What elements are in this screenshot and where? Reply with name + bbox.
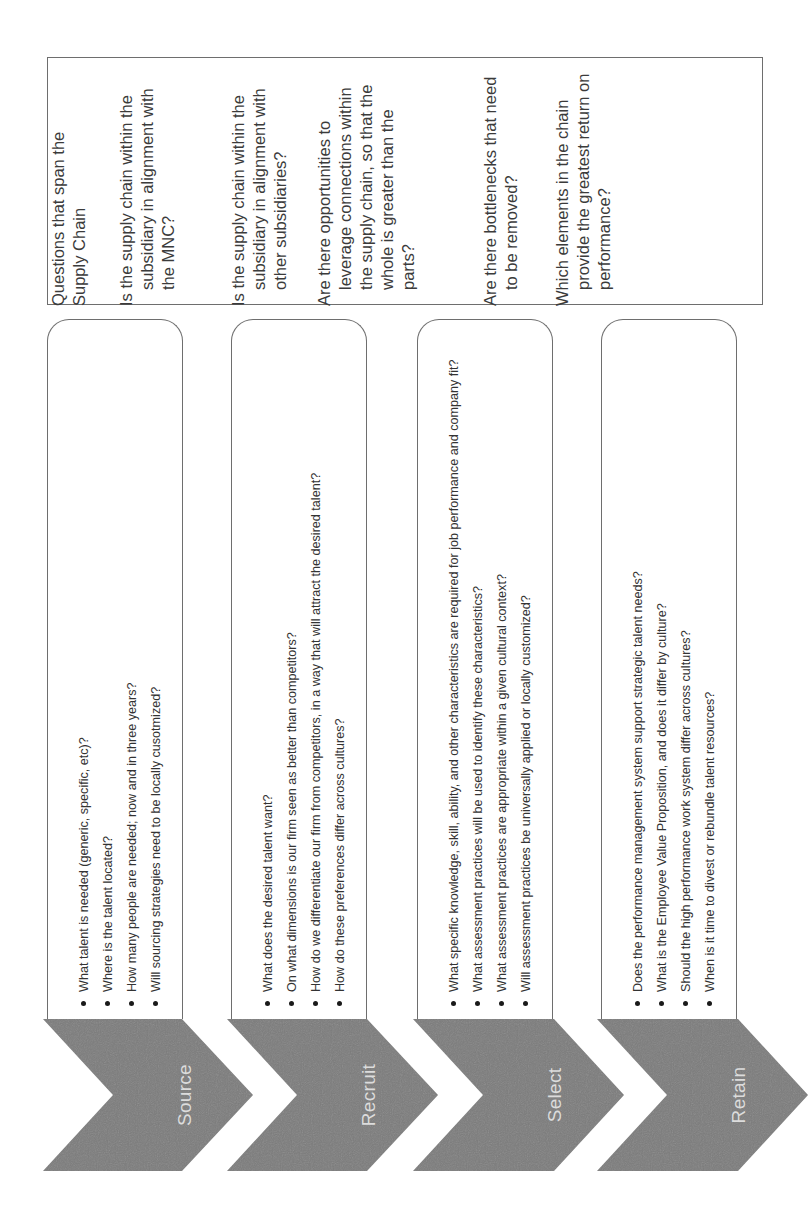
bullet-icon (683, 1001, 688, 1006)
supply-chain-question: Are there opportunities to leverage conn… (314, 70, 419, 306)
supply-chain-question: Which elements in the chain provide the … (552, 70, 615, 306)
list-item: What assessment practices are appropriat… (494, 340, 510, 1006)
bullet-icon (265, 1001, 270, 1006)
chevron-select: Select (413, 1019, 625, 1171)
source-question-list: What talent is needed (generic, specific… (76, 340, 164, 1006)
bullet-icon (105, 1001, 110, 1006)
bullet-icon (523, 1001, 528, 1006)
recruit-questions-box: What does the desired talent want? On wh… (231, 319, 367, 1019)
bullet-icon (659, 1001, 664, 1006)
list-item: What talent is needed (generic, specific… (76, 340, 92, 1006)
bullet-icon (153, 1001, 158, 1006)
supply-chain-questions-content: Questions that span the Supply Chain Is … (48, 58, 764, 306)
list-item: Will assessment practices be universally… (518, 340, 534, 1006)
list-item: What assessment practices will be used t… (470, 340, 486, 1006)
select-question-list: What specific knowledge, skill, ability,… (446, 340, 534, 1006)
list-item: What does the desired talent want? (260, 340, 276, 1006)
bullet-icon (635, 1001, 640, 1006)
chevron-arrow-icon (597, 1019, 809, 1171)
stage-label-retain: Retain (719, 1019, 759, 1171)
supply-chain-question: Is the supply chain within the subsidiar… (116, 70, 179, 306)
list-item: What is the Employee Value Proposition, … (654, 340, 670, 1006)
supply-chain-questions-box: Questions that span the Supply Chain Is … (47, 57, 763, 305)
chevron-arrow-icon (227, 1019, 439, 1171)
list-item: When is it time to divest or rebundle ta… (702, 340, 718, 1006)
list-item: How do these preferences differ across c… (332, 340, 348, 1006)
bullet-icon (289, 1001, 294, 1006)
select-questions-box: What specific knowledge, skill, ability,… (417, 319, 553, 1019)
recruit-question-list: What does the desired talent want? On wh… (260, 340, 348, 1006)
bullet-icon (707, 1001, 712, 1006)
list-item: On what dimensions is our firm seen as b… (284, 340, 300, 1006)
stage-label-source: Source (165, 1019, 205, 1171)
bullet-icon (313, 1001, 318, 1006)
list-item: How many people are needed; now and in t… (124, 340, 140, 1006)
bullet-icon (129, 1001, 134, 1006)
list-item: What specific knowledge, skill, ability,… (446, 340, 462, 1006)
stage-label-select: Select (535, 1019, 575, 1171)
list-item: Will sourcing strategies need to be loca… (148, 340, 164, 1006)
chevron-source: Source (43, 1019, 255, 1171)
bullet-icon (337, 1001, 342, 1006)
list-item: Should the high performance work system … (678, 340, 694, 1006)
list-item: How do we differentiate our firm from co… (308, 340, 324, 1006)
list-item: Where is the talent located? (100, 340, 116, 1006)
chevron-recruit: Recruit (227, 1019, 439, 1171)
bullet-icon (81, 1001, 86, 1006)
list-item: Does the performance management system s… (630, 340, 646, 1006)
bullet-icon (499, 1001, 504, 1006)
supply-chain-question: Are there bottlenecks that need to be re… (480, 70, 522, 306)
supply-chain-question: Is the supply chain within the subsidiar… (228, 70, 291, 306)
supply-chain-title: Questions that span the Supply Chain (48, 86, 90, 306)
chevron-arrow-icon (413, 1019, 625, 1171)
bullet-icon (475, 1001, 480, 1006)
chevron-retain: Retain (597, 1019, 809, 1171)
stage-label-recruit: Recruit (349, 1019, 389, 1171)
bullet-icon (451, 1001, 456, 1006)
retain-questions-box: Does the performance management system s… (601, 319, 737, 1019)
retain-question-list: Does the performance management system s… (630, 340, 718, 1006)
source-questions-box: What talent is needed (generic, specific… (47, 319, 183, 1019)
chevron-arrow-icon (43, 1019, 255, 1171)
